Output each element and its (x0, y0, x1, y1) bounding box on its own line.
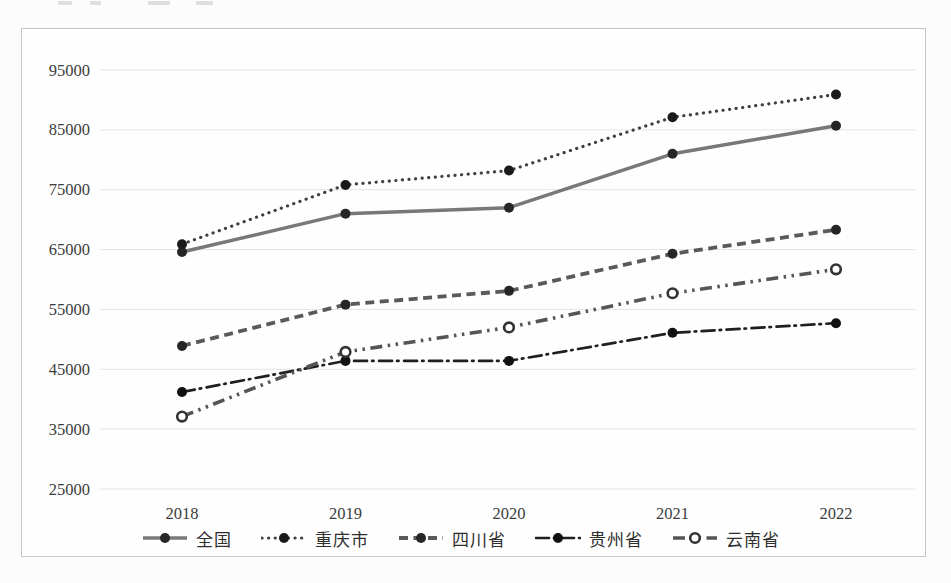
data-point-yunnan (504, 323, 514, 333)
chart-legend: 全国重庆市四川省贵州省云南省 (142, 526, 780, 550)
data-point-chongqing (668, 112, 678, 122)
data-point-national (668, 149, 678, 159)
legend-item-guizhou: 贵州省 (535, 526, 643, 551)
data-point-sichuan (177, 341, 187, 351)
legend-line-sample-sichuan (398, 531, 444, 545)
legend-line-sample-yunnan (672, 531, 718, 545)
y-tick-label: 65000 (49, 240, 90, 259)
data-point-sichuan (668, 249, 678, 259)
legend-marker (690, 533, 700, 543)
legend-marker (416, 533, 426, 543)
data-point-guizhou (504, 356, 514, 366)
series-line-national (182, 126, 836, 252)
legend-label-sichuan: 四川省 (452, 526, 506, 551)
data-point-national (831, 121, 841, 131)
data-point-yunnan (177, 412, 187, 422)
x-tick-label: 2021 (656, 504, 689, 523)
y-tick-label: 45000 (49, 360, 90, 379)
series-national (177, 121, 841, 257)
data-point-sichuan (341, 300, 351, 310)
legend-marker (553, 533, 563, 543)
data-point-chongqing (831, 90, 841, 100)
data-point-sichuan (831, 225, 841, 235)
x-tick-label: 2022 (820, 504, 853, 523)
line-chart: 9500085000750006500055000450003500025000… (0, 0, 951, 583)
y-tick-label: 75000 (49, 180, 90, 199)
legend-item-national: 全国 (142, 526, 232, 551)
legend-label-chongqing: 重庆市 (315, 526, 369, 551)
data-point-yunnan (668, 288, 678, 298)
x-tick-label: 2020 (493, 504, 526, 523)
data-point-sichuan (504, 286, 514, 296)
x-tick-label: 2019 (329, 504, 362, 523)
y-tick-label: 55000 (49, 300, 90, 319)
y-tick-label: 35000 (49, 420, 90, 439)
legend-marker (160, 533, 170, 543)
x-tick-label: 2018 (166, 504, 199, 523)
data-point-guizhou (668, 328, 678, 338)
data-point-chongqing (177, 239, 187, 249)
data-point-national (504, 203, 514, 213)
data-point-chongqing (341, 180, 351, 190)
legend-item-chongqing: 重庆市 (261, 526, 369, 551)
data-point-guizhou (177, 387, 187, 397)
legend-label-national: 全国 (196, 526, 232, 551)
data-point-guizhou (831, 318, 841, 328)
data-point-national (341, 209, 351, 219)
y-axis-labels: 9500085000750006500055000450003500025000 (49, 61, 90, 499)
data-point-chongqing (504, 166, 514, 176)
legend-line-sample-chongqing (261, 531, 307, 545)
legend-item-yunnan: 云南省 (672, 526, 780, 551)
scanned-chart-page: 9500085000750006500055000450003500025000… (0, 0, 951, 583)
data-point-yunnan (831, 265, 841, 275)
legend-line-sample-national (142, 531, 188, 545)
legend-marker (279, 533, 289, 543)
legend-item-sichuan: 四川省 (398, 526, 506, 551)
series-chongqing (177, 90, 841, 250)
x-axis-labels: 20182019202020212022 (166, 504, 853, 523)
data-point-yunnan (341, 347, 351, 357)
legend-line-sample-guizhou (535, 531, 581, 545)
legend-label-guizhou: 贵州省 (589, 526, 643, 551)
y-tick-label: 85000 (49, 120, 90, 139)
y-tick-label: 95000 (49, 61, 90, 80)
y-tick-label: 25000 (49, 480, 90, 499)
legend-label-yunnan: 云南省 (726, 526, 780, 551)
